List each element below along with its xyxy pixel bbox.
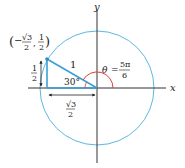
svg-text:2: 2 xyxy=(39,43,44,52)
svg-text:6: 6 xyxy=(122,71,127,80)
svg-text:1: 1 xyxy=(39,33,44,42)
point-coordinates-label: ( − √3 2 , 1 2 ) xyxy=(9,33,50,52)
svg-text:2: 2 xyxy=(32,74,37,83)
svg-text:2: 2 xyxy=(24,43,29,52)
svg-text:√3: √3 xyxy=(66,100,76,109)
theta-arc xyxy=(83,72,113,88)
theta-label: θ = 5π 6 xyxy=(102,60,130,80)
svg-text:√3: √3 xyxy=(22,33,32,42)
vertical-leg-label: 1 2 xyxy=(31,64,37,83)
terminal-point xyxy=(45,57,49,61)
svg-text:1: 1 xyxy=(32,64,37,73)
y-axis-label: y xyxy=(93,1,100,12)
svg-text:,: , xyxy=(33,38,36,48)
horizontal-leg-label: √3 2 xyxy=(66,100,76,119)
svg-text:5π: 5π xyxy=(120,60,130,69)
x-axis-label: x xyxy=(170,82,176,93)
reference-angle-label: 30° xyxy=(64,77,80,87)
svg-text:): ) xyxy=(45,34,50,49)
unit-circle-diagram: x y ( − √3 2 , 1 2 ) 1 2 1 30° θ xyxy=(0,0,185,168)
svg-text:θ: θ xyxy=(102,65,108,75)
svg-text:2: 2 xyxy=(68,110,73,119)
radius-label: 1 xyxy=(70,59,76,70)
svg-text:=: = xyxy=(111,65,119,75)
reference-angle-arc xyxy=(85,82,87,88)
